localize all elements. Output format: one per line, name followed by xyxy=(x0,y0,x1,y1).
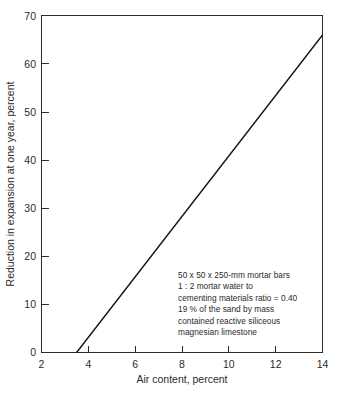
x-axis-title: Air content, percent xyxy=(136,373,227,385)
x-tick-label: 2 xyxy=(39,358,45,370)
x-tick-label: 10 xyxy=(223,358,235,370)
y-axis-title: Reduction in expansion at one year, perc… xyxy=(4,81,16,286)
annotation-line: cementing materials ratio = 0.40 xyxy=(178,293,324,304)
x-axis-ticks xyxy=(88,346,275,353)
y-tick-label: 70 xyxy=(24,10,36,22)
y-tick-label: 50 xyxy=(24,106,36,118)
specimen-note-annotation: 50 x 50 x 250-mm mortar bars 1 : 2 morta… xyxy=(178,270,324,338)
annotation-line: magnesian limestone xyxy=(178,327,324,338)
annotation-line: 19 % of the sand by mass xyxy=(178,304,324,315)
y-tick-label: 10 xyxy=(24,298,36,310)
chart-figure: 0 10 20 30 40 50 60 70 2 4 6 8 10 12 14 … xyxy=(0,0,337,394)
x-tick-labels: 2 4 6 8 10 12 14 xyxy=(39,358,329,370)
y-tick-label: 30 xyxy=(24,202,36,214)
y-tick-label: 40 xyxy=(24,154,36,166)
y-tick-label: 60 xyxy=(24,58,36,70)
x-tick-label: 6 xyxy=(132,358,138,370)
annotation-line: contained reactive siliceous xyxy=(178,316,324,327)
x-tick-label: 8 xyxy=(179,358,185,370)
y-tick-label: 0 xyxy=(30,346,36,358)
annotation-line: 1 : 2 mortar water to xyxy=(178,281,324,292)
annotation-line: 50 x 50 x 250-mm mortar bars xyxy=(178,270,324,281)
y-axis-ticks xyxy=(42,16,49,353)
y-tick-labels: 0 10 20 30 40 50 60 70 xyxy=(24,10,36,359)
x-tick-label: 14 xyxy=(317,358,329,370)
x-tick-label: 12 xyxy=(270,358,282,370)
x-tick-label: 4 xyxy=(85,358,91,370)
y-tick-label: 20 xyxy=(24,250,36,262)
